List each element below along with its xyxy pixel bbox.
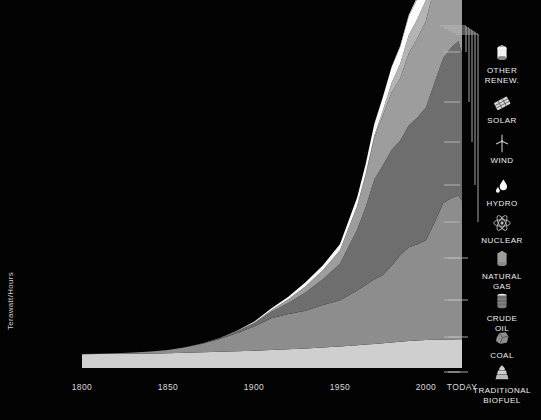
legend-item[interactable]: HYDRO bbox=[463, 175, 541, 209]
legend-item[interactable]: TRADITIONAL BIOFUEL bbox=[463, 362, 541, 405]
legend-item[interactable]: COAL bbox=[463, 327, 541, 361]
stacked-area-plot bbox=[0, 0, 541, 420]
legend-item[interactable]: OTHER RENEW. bbox=[463, 42, 541, 85]
legend-item-label: COAL bbox=[463, 351, 541, 361]
wood-log-icon bbox=[491, 362, 513, 384]
legend-item-label: HYDRO bbox=[463, 199, 541, 209]
oil-barrel-icon bbox=[491, 290, 513, 312]
x-axis-tick: 1950 bbox=[330, 382, 351, 392]
area-series-group bbox=[0, 0, 541, 420]
legend-item[interactable]: SOLAR bbox=[463, 92, 541, 126]
x-axis-tick: 2000 bbox=[416, 382, 437, 392]
solar-panel-icon bbox=[491, 92, 513, 114]
water-drop-icon bbox=[491, 175, 513, 197]
gas-canister-icon bbox=[491, 248, 513, 270]
coal-lump-icon bbox=[491, 327, 513, 349]
legend-item[interactable]: WIND bbox=[463, 132, 541, 166]
legend-item-label: TRADITIONAL BIOFUEL bbox=[463, 386, 541, 405]
x-axis-tick: 1900 bbox=[244, 382, 265, 392]
x-axis-tick: 1850 bbox=[158, 382, 179, 392]
chart-canvas: Terawatt/Hours 140,000120,000100,00080,0… bbox=[0, 0, 541, 420]
legend-item-label: NUCLEAR bbox=[463, 236, 541, 246]
canister-icon bbox=[491, 42, 513, 64]
legend-item[interactable]: NUCLEAR bbox=[463, 212, 541, 246]
atom-icon bbox=[491, 212, 513, 234]
legend: OTHER RENEW.SOLARWINDHYDRONUCLEARNATURAL… bbox=[463, 0, 541, 420]
x-axis-tick: 1800 bbox=[72, 382, 93, 392]
legend-item-label: NATURAL GAS bbox=[463, 272, 541, 291]
legend-item[interactable]: NATURAL GAS bbox=[463, 248, 541, 291]
legend-item-label: WIND bbox=[463, 156, 541, 166]
legend-item-label: SOLAR bbox=[463, 116, 541, 126]
legend-item-label: OTHER RENEW. bbox=[463, 66, 541, 85]
wind-turbine-icon bbox=[491, 132, 513, 154]
